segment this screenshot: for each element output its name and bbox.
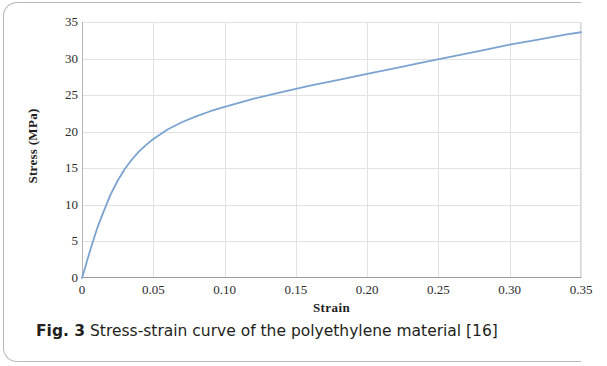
x-axis-tick-label: 0.20 <box>356 282 379 298</box>
figure-caption: Fig. 3 Stress-strain curve of the polyet… <box>36 322 592 341</box>
x-axis-label: Strain <box>82 300 581 316</box>
figure-caption-label: Fig. 3 <box>36 322 85 340</box>
x-axis-tick-label: 0.30 <box>498 282 521 298</box>
y-axis-tick-label: 15 <box>38 160 78 176</box>
plot-area <box>82 22 581 278</box>
gridline-vertical <box>581 22 582 278</box>
y-axis-tick-label: 10 <box>38 197 78 213</box>
x-axis-tick-label: 0.35 <box>570 282 593 298</box>
stress-strain-curve <box>82 22 581 278</box>
x-axis-tick-label: 0.05 <box>142 282 165 298</box>
y-axis-tick-label: 20 <box>38 124 78 140</box>
y-axis-tick-label: 35 <box>38 14 78 30</box>
figure-caption-text: Stress-strain curve of the polyethylene … <box>90 322 498 340</box>
x-axis-tick-label: 0 <box>79 282 86 298</box>
x-axis-tick-label: 0.10 <box>213 282 236 298</box>
y-axis-label: Stress (MPa) <box>25 71 41 221</box>
stress-strain-chart: 05101520253035 00.050.100.150.200.250.30… <box>10 6 599 298</box>
y-axis-tick-label: 30 <box>38 51 78 67</box>
x-axis-tick-label: 0.15 <box>284 282 307 298</box>
figure-block: 05101520253035 00.050.100.150.200.250.30… <box>0 0 607 366</box>
y-axis-tick-label: 0 <box>38 270 78 286</box>
x-axis-tick-labels: 00.050.100.150.200.250.300.35 <box>82 282 581 302</box>
x-axis-tick-label: 0.25 <box>427 282 450 298</box>
y-axis-tick-label: 5 <box>38 233 78 249</box>
y-axis-tick-label: 25 <box>38 87 78 103</box>
